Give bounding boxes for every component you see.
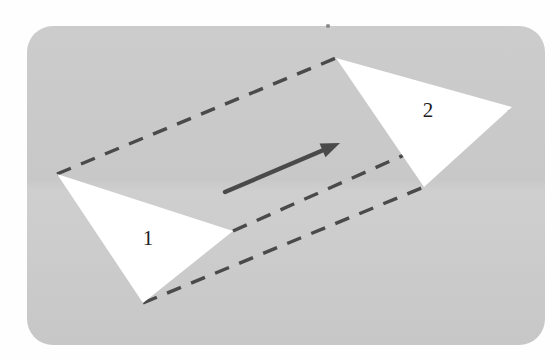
figure-root: 1 2	[0, 0, 559, 361]
figure-svg: 1 2	[0, 0, 559, 361]
triangle-two-label: 2	[423, 98, 434, 122]
scan-speck	[326, 24, 330, 28]
triangle-one-label: 1	[143, 226, 154, 250]
rounded-gray-panel	[27, 26, 545, 345]
